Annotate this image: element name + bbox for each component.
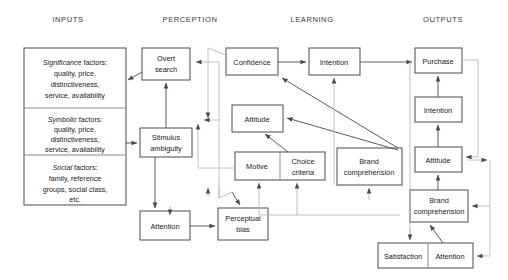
input-group-symbolic-title: Symbolic factors: (48, 115, 103, 124)
input-group-symbolic-line3: service, availability (45, 145, 105, 154)
column-header-learning: LEARNING (290, 15, 333, 24)
node-brand-comprehension-learning-line2: comprehension (344, 168, 395, 177)
edge-brand-comp-to-attitude (287, 118, 398, 150)
node-attention-output-label: Attention (435, 252, 464, 261)
node-brand-comprehension-learning (337, 148, 402, 185)
node-brand-comprehension-output-line2: comprehension (414, 207, 465, 216)
node-overt-search-line2: search (155, 65, 177, 74)
node-confidence-label: Confidence (233, 58, 270, 67)
node-perceptual-bias-line1: Perceptual (225, 214, 261, 223)
edge-brand-comp-to-confidence (282, 78, 398, 148)
node-stimulus-ambiguity-line2: ambiguity (150, 144, 182, 153)
node-brand-comprehension-output-line1: Brand (429, 196, 449, 205)
input-group-social-line3: etc. (69, 195, 81, 204)
node-attitude-output-label: Attitude (425, 156, 450, 165)
node-perceptual-bias-line2: bias (236, 225, 250, 234)
node-purchase-label: Purchase (422, 57, 453, 66)
node-brand-comprehension-output (410, 190, 468, 222)
input-group-social-title: Social factors: (52, 163, 97, 172)
column-header-perception: PERCEPTION (163, 15, 218, 24)
node-overt-search (142, 48, 190, 80)
input-group-social-line1: family, reference (49, 174, 102, 183)
input-group-symbolic-line1: quality, price, (54, 125, 96, 134)
edge-choice-criteria-to-attitude (265, 134, 288, 152)
node-perceptual-bias (218, 208, 268, 240)
edge-overt-search-to-inputs (128, 72, 142, 80)
edge-outer-feedback-to-attention (477, 160, 490, 256)
node-satisfaction-label: Satisfaction (384, 252, 422, 261)
input-group-significance-line1: quality, price, (54, 69, 96, 78)
node-choice-criteria-line2: criteria (292, 168, 315, 177)
node-intention-learning-label: Intention (320, 58, 348, 67)
edge-feedback-confidence-link (208, 48, 226, 55)
buyer-behaviour-diagram: INPUTS PERCEPTION LEARNING OUTPUTS Signi… (0, 0, 508, 280)
diagram-canvas: INPUTS PERCEPTION LEARNING OUTPUTS Signi… (0, 0, 508, 280)
edge-to-perceptual-bias-top (232, 192, 240, 205)
input-group-significance-line3: service, availability (45, 91, 105, 100)
edge-feedback-overt-vertical (219, 62, 232, 198)
node-choice-criteria-line1: Choice (291, 157, 314, 166)
node-attitude-learning-label: Attitude (244, 115, 269, 124)
edge-attention-output-to-brand-comp (430, 225, 443, 243)
edge-purchase-to-attitude-feedback (462, 60, 478, 157)
input-group-significance-line2: distinctiveness, (51, 80, 100, 89)
node-intention-output-label: Intention (424, 106, 452, 115)
input-group-symbolic-line2: distinctiveness, (51, 135, 100, 144)
node-motive-label: Motive (246, 162, 268, 171)
input-group-social-line2: groups, social class, (43, 185, 108, 194)
column-header-inputs: INPUTS (52, 15, 83, 24)
node-overt-search-line1: Overt (157, 54, 175, 63)
input-group-significance-title: Significance factors: (43, 58, 107, 67)
node-attention-perception-label: Attention (150, 222, 179, 231)
node-brand-comprehension-learning-line1: Brand (359, 157, 379, 166)
column-header-outputs: OUTPUTS (423, 15, 463, 24)
node-stimulus-ambiguity-line1: Stimulus (152, 133, 181, 142)
